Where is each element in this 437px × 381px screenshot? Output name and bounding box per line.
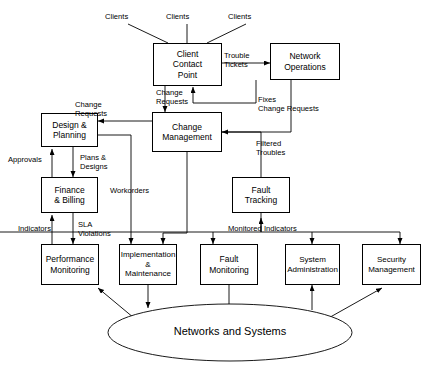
label-text: SLA Violations [78,220,111,238]
label-trouble-tickets: Trouble Tickets [224,51,249,69]
edge-networks-to-security [325,288,382,320]
label-clients-center: Clients [166,12,189,21]
label-text: Filtered Troubles [256,139,285,157]
label-monitored-indicators: Monitored Indicators [228,224,297,233]
diagram-canvas: Client Contact Point Network Operations … [0,0,437,381]
edge-changemgmt-to-implementation [163,152,187,244]
edge-clients-left-to-ccp [128,24,168,43]
node-label: System Administration [285,255,340,275]
label-clients-right: Clients [228,12,251,21]
node-label: Security Management [366,255,417,275]
label-change-requests-top: Change Requests [156,88,188,106]
label-text: Monitored Indicators [228,224,297,233]
label-text: Clients [166,12,189,21]
node-client-contact-point[interactable]: Client Contact Point [153,43,222,86]
node-system-administration[interactable]: System Administration [285,244,340,285]
node-implementation-maintenance[interactable]: Implementation & Maintenance [119,244,177,285]
label-clients-left: Clients [105,12,128,21]
node-label: Fault Tracking [243,185,279,206]
node-label: Client Contact Point [171,49,204,80]
edge-clients-right-to-ccp [207,24,246,43]
node-network-operations[interactable]: Network Operations [270,43,340,80]
label-approvals: Approvals [8,155,42,164]
label-text: Workorders [110,186,149,195]
node-fault-tracking[interactable]: Fault Tracking [232,177,290,213]
node-label: Fault Monitoring [207,254,251,275]
node-security-management[interactable]: Security Management [362,244,421,285]
label-plans-designs: Plans & Designs [80,153,107,171]
label-text: Approvals [8,155,42,164]
label-sla-violations: SLA Violations [78,220,111,238]
label-text: Plans & Designs [80,153,107,171]
label-text: Trouble Tickets [224,51,249,69]
label-text: Indicators [18,224,51,233]
label-change-requests-left: Change Requests [75,100,107,118]
label-indicators: Indicators [18,224,51,233]
node-label: Performance Monitoring [44,254,97,275]
label-filtered-troubles: Filtered Troubles [256,139,285,157]
label-text: Clients [105,12,128,21]
node-fault-monitoring[interactable]: Fault Monitoring [200,244,258,285]
node-networks-and-systems[interactable]: Networks and Systems [108,325,352,337]
node-change-management[interactable]: Change Management [152,112,222,152]
node-label: Change Management [160,122,214,143]
node-label: Implementation & Maintenance [119,250,178,279]
node-label: Networks and Systems [174,325,286,337]
label-text: Change Requests [75,100,107,118]
label-fixes-change-requests: Fixes Change Requests [258,95,319,113]
node-label: Network Operations [282,51,328,72]
node-label: Finance & Billing [52,185,87,206]
label-workorders: Workorders [110,186,149,195]
node-performance-monitoring[interactable]: Performance Monitoring [41,244,99,285]
node-finance-billing[interactable]: Finance & Billing [41,177,98,213]
label-text: Change Requests [156,88,188,106]
label-text: Fixes Change Requests [258,95,319,113]
label-text: Clients [228,12,251,21]
node-label: Design & Planning [50,120,89,141]
